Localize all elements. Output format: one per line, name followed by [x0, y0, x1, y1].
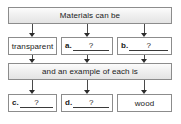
arrow-down-icon: [141, 80, 148, 94]
arrow-down-icon: [84, 24, 91, 37]
arrow-down-icon: [141, 24, 148, 37]
header-box-materials-can-be: Materials can be: [8, 7, 172, 24]
blank-rule-b[interactable]: ?: [129, 42, 168, 51]
blank-rule-a[interactable]: ?: [73, 42, 109, 51]
example-box-wood: wood: [117, 94, 172, 112]
arrow-stem: [87, 80, 88, 90]
property-box-b[interactable]: b. ?: [117, 37, 172, 55]
arrow-stem: [144, 24, 145, 33]
blank-answer-c: c. ?: [9, 99, 56, 108]
connector-box-example-label: and an example of each is: [42, 67, 138, 76]
arrow-down-icon: [84, 80, 91, 94]
blank-label-d: d.: [65, 99, 72, 108]
blank-rule-c[interactable]: ?: [20, 99, 53, 108]
blank-answer-a: a. ?: [62, 42, 112, 51]
arrow-down-icon: [141, 55, 148, 63]
property-box-a[interactable]: a. ?: [61, 37, 113, 55]
example-box-wood-label: wood: [135, 99, 155, 108]
arrow-down-icon: [84, 55, 91, 63]
blank-label-a: a.: [65, 42, 72, 51]
connector-box-example: and an example of each is: [8, 63, 172, 80]
blank-answer-d: d. ?: [62, 99, 112, 108]
arrow-stem: [87, 24, 88, 33]
arrow-down-icon: [29, 80, 36, 94]
materials-flow-diagram: Materials can be transparent a. ? b. ?: [0, 0, 181, 124]
arrow-stem: [32, 80, 33, 90]
arrow-down-icon: [29, 24, 36, 37]
arrow-stem: [144, 80, 145, 90]
header-box-materials-label: Materials can be: [60, 11, 120, 20]
blank-label-c: c.: [12, 99, 19, 108]
blank-rule-d[interactable]: ?: [73, 99, 109, 108]
blank-label-b: b.: [121, 42, 128, 51]
property-box-transparent-label: transparent: [12, 42, 54, 51]
blank-answer-b: b. ?: [118, 42, 171, 51]
property-box-transparent: transparent: [8, 37, 57, 55]
example-box-d[interactable]: d. ?: [61, 94, 113, 112]
arrow-stem: [32, 24, 33, 33]
example-box-c[interactable]: c. ?: [8, 94, 57, 112]
arrow-down-icon: [29, 55, 36, 63]
